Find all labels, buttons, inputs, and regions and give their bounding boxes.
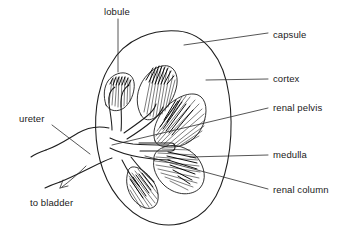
label-to-bladder: to bladder bbox=[30, 197, 73, 208]
label-renal-column: renal column bbox=[273, 184, 329, 195]
label-lobule: lobule bbox=[104, 6, 130, 17]
kidney-cross-section-figure: lobule capsule cortex renal pelvis medul… bbox=[0, 0, 349, 245]
medullary-pyramid-lower-left bbox=[127, 167, 159, 209]
leader-line-to-bladder bbox=[62, 166, 86, 187]
label-medulla: medulla bbox=[273, 149, 308, 160]
label-renal-pelvis: renal pelvis bbox=[273, 102, 322, 113]
kidney-diagram: lobule capsule cortex renal pelvis medul… bbox=[0, 0, 349, 245]
leader-line-cortex bbox=[206, 79, 268, 80]
leader-line-capsule bbox=[184, 33, 268, 45]
label-ureter: ureter bbox=[19, 113, 44, 124]
label-capsule: capsule bbox=[273, 29, 306, 40]
leader-lines bbox=[52, 19, 268, 189]
label-cortex: cortex bbox=[273, 73, 300, 84]
renal-pelvis-and-ureter bbox=[31, 85, 175, 188]
